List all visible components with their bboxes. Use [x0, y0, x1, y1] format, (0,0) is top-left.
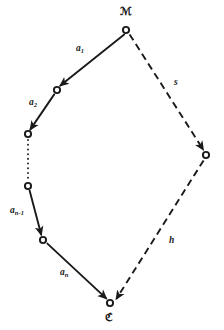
- vertex-label-B: ℭ: [105, 312, 113, 323]
- vertex-node-right: [203, 152, 209, 158]
- solid-chain-edges: [28, 35, 124, 299]
- vertex-nodes: [25, 27, 209, 306]
- diagram-canvas: [0, 0, 224, 330]
- vertex-node-1: [54, 87, 60, 93]
- edge-a1: [60, 35, 124, 86]
- edge-label-h: h: [169, 236, 174, 246]
- dashed-path-edges: [116, 34, 203, 298]
- edge-s: [130, 34, 204, 149]
- edge-h: [116, 160, 203, 298]
- vertex-node-B: [107, 300, 113, 306]
- edge-an-minus-1: [30, 191, 42, 235]
- vertex-label-A: ℳ: [120, 6, 132, 17]
- vertex-node-2: [25, 131, 31, 137]
- edge-label-an-minus-1: an-1: [10, 206, 24, 216]
- vertex-node-3: [25, 183, 31, 189]
- edge-an: [47, 244, 106, 299]
- edge-label-a1: a1: [76, 44, 84, 54]
- edge-label-s: s: [174, 78, 178, 88]
- vertex-node-A: [123, 27, 129, 33]
- path-diagram-figure: a1 a2 an-1 an s h ℳ ℭ: [0, 0, 224, 330]
- vertex-node-4: [40, 237, 46, 243]
- edge-label-an-subscript: n: [65, 271, 69, 278]
- edge-label-an: an: [60, 268, 68, 278]
- edge-label-an-minus-1-subscript: n-1: [15, 209, 24, 216]
- edge-label-a1-subscript: 1: [81, 47, 84, 54]
- edge-label-a2: a2: [29, 98, 37, 108]
- edge-label-a2-subscript: 2: [34, 101, 37, 108]
